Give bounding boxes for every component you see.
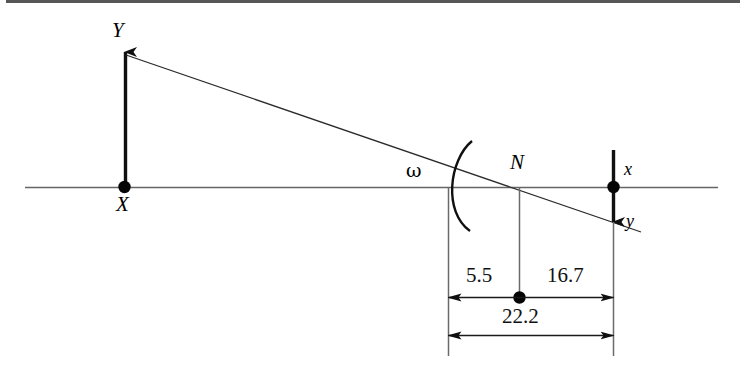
dimension-label-total-span: 22.2 [502,306,539,327]
diagram-canvas [0,0,740,374]
label-object-base: X [116,194,129,215]
dimension-label-right-segment: 16.7 [547,265,584,286]
ray-diagram-figure: Y X N x y ω 5.5 16.7 22.2 [0,0,740,374]
image-point-marker [607,181,619,193]
principal-ray [126,55,641,232]
mirror-arc [452,141,472,231]
label-angle-omega: ω [406,161,422,180]
label-image-tip: y [626,212,634,230]
label-mirror-node: N [510,152,524,173]
dimension-label-left-segment: 5.5 [466,265,492,286]
label-image-base: x [624,160,632,178]
label-object-tip: Y [112,20,124,41]
